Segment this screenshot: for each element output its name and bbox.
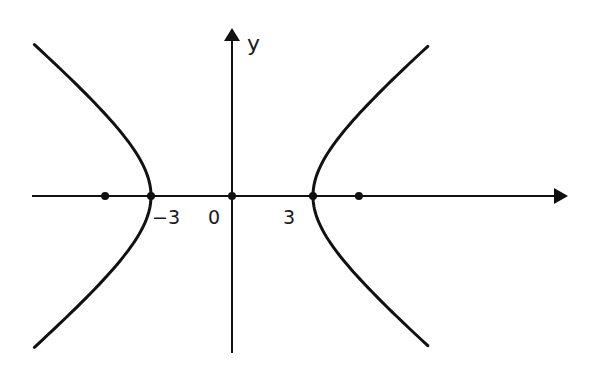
point-left-focus [101, 192, 109, 200]
point-left-vertex [147, 192, 155, 200]
point-origin [228, 192, 236, 200]
tick-label-neg3: −3 [152, 208, 180, 227]
point-right-focus [355, 192, 363, 200]
tick-label-3: 3 [283, 208, 295, 227]
y-axis-arrowhead-icon [224, 28, 240, 41]
y-axis-label: y [247, 33, 260, 55]
hyperbola-diagram [0, 0, 595, 367]
point-right-vertex [309, 192, 317, 200]
tick-label-0: 0 [208, 208, 220, 227]
x-axis-arrowhead-icon [554, 188, 568, 204]
